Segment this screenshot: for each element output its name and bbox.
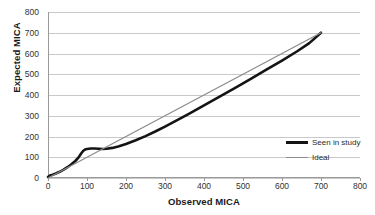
calibration-chart: Expected MICA 0100200300400500600700800 … <box>0 0 375 215</box>
x-tick-label: 600 <box>275 181 289 191</box>
x-tick-label: 300 <box>158 181 172 191</box>
x-tick-label: 800 <box>353 181 367 191</box>
x-tick-label: 200 <box>119 181 133 191</box>
x-tick-label: 0 <box>46 181 51 191</box>
x-tick-label: 100 <box>80 181 94 191</box>
x-tick-label: 400 <box>197 181 211 191</box>
x-axis-title: Observed MICA <box>48 196 360 207</box>
x-tick-label: 500 <box>236 181 250 191</box>
x-axis-tick-labels: 0100200300400500600700800 <box>0 0 375 215</box>
x-tick-label: 700 <box>314 181 328 191</box>
